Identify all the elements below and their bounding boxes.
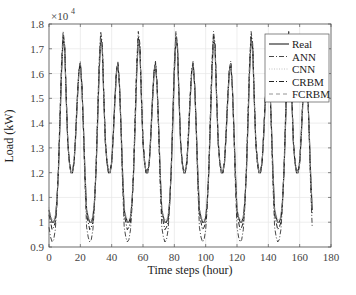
y-tick-label: 1.4	[30, 117, 44, 129]
x-tick-label: 180	[323, 251, 340, 263]
y-multiplier-exponent: 4	[71, 7, 75, 16]
x-tick-label: 40	[106, 251, 118, 263]
x-tick-label: 0	[46, 251, 52, 263]
x-tick-label: 20	[75, 251, 87, 263]
y-tick-label: 1.5	[30, 92, 44, 104]
x-tick-label: 80	[169, 251, 181, 263]
y-tick-label: 1.6	[30, 68, 44, 80]
y-tick-label: 1.7	[30, 43, 44, 55]
x-tick-label: 100	[197, 251, 214, 263]
legend-entry-cnn: CNN	[292, 63, 315, 75]
x-tick-label: 120	[229, 251, 246, 263]
y-tick-label: 0.9	[30, 241, 44, 253]
y-tick-label: 1.3	[30, 142, 44, 154]
y-tick-label: 1.2	[30, 167, 44, 179]
legend: RealANNCNNCRBMFCRBM	[265, 34, 330, 102]
x-tick-label: 140	[260, 251, 277, 263]
y-tick-label: 1.1	[30, 191, 44, 203]
x-axis-label: Time steps (hour)	[148, 263, 233, 277]
legend-entry-real: Real	[292, 38, 312, 50]
y-axis-label: Load (kW)	[2, 110, 16, 163]
y-multiplier: ×10	[51, 10, 69, 22]
legend-entry-crbm: CRBM	[292, 76, 324, 88]
legend-entry-fcrbm: FCRBM	[292, 88, 330, 100]
load-forecast-chart: 020406080100120140160180 0.911.11.21.31.…	[0, 0, 356, 295]
y-tick-label: 1	[39, 216, 45, 228]
y-tick-label: 1.8	[30, 18, 44, 30]
legend-entry-ann: ANN	[292, 51, 316, 63]
x-tick-label: 160	[291, 251, 308, 263]
x-tick-label: 60	[138, 251, 150, 263]
